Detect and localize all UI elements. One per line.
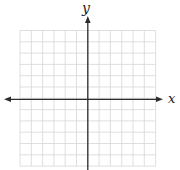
x-axis-label: x: [168, 92, 175, 105]
coordinate-plane-figure: y x: [0, 0, 180, 170]
x-axis-right-arrow-icon: [156, 97, 163, 103]
y-axis-top-arrow-icon: [85, 16, 91, 23]
y-axis-label: y: [82, 1, 90, 15]
x-axis-left-arrow-icon: [4, 97, 11, 103]
coordinate-grid: [0, 0, 180, 170]
